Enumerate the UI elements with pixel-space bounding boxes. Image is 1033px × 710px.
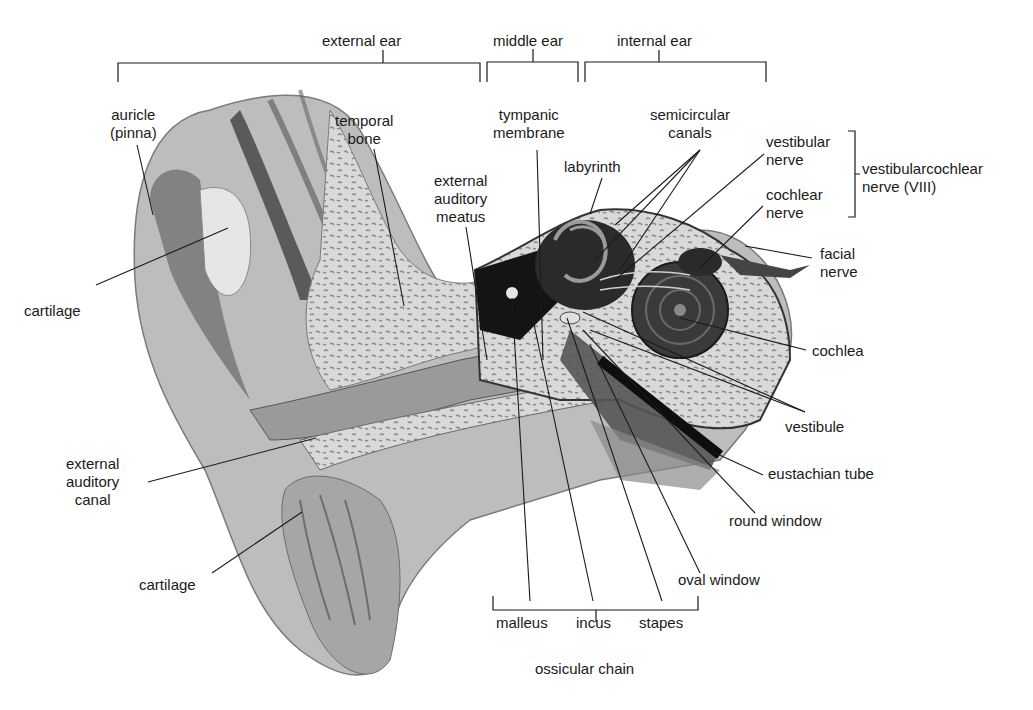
- label-auricle: auricle(pinna): [110, 106, 157, 142]
- label-external-auditory-canal: externalauditorycanal: [66, 455, 119, 509]
- label-cochlea: cochlea: [812, 342, 864, 360]
- label-vestibular-nerve: vestibularnerve: [766, 133, 830, 169]
- label-cartilage-upper: cartilage: [24, 302, 81, 320]
- label-middle-ear: middle ear: [493, 32, 563, 50]
- label-oval-window: oval window: [678, 571, 760, 589]
- label-semicircular-canals: semicircularcanals: [650, 106, 730, 142]
- label-external-ear: external ear: [322, 32, 401, 50]
- label-internal-ear: internal ear: [617, 32, 692, 50]
- label-round-window: round window: [729, 512, 822, 530]
- label-tympanic-membrane: tympanicmembrane: [493, 106, 565, 142]
- label-labyrinth: labyrinth: [564, 158, 621, 176]
- label-temporal-bone: temporalbone: [335, 112, 393, 148]
- label-vestibule: vestibule: [785, 418, 844, 436]
- label-eustachian-tube: eustachian tube: [768, 465, 874, 483]
- label-ossicular-chain: ossicular chain: [535, 660, 634, 678]
- label-malleus: malleus: [496, 614, 548, 632]
- label-cartilage-lower: cartilage: [139, 576, 196, 594]
- label-facial-nerve: facialnerve: [820, 245, 858, 281]
- label-vestibulocochlear-nerve: vestibularcochlearnerve (VIII): [862, 160, 983, 196]
- label-cochlear-nerve: cochlearnerve: [766, 186, 823, 222]
- label-external-auditory-meatus: externalauditorymeatus: [434, 172, 487, 226]
- label-stapes: stapes: [639, 614, 683, 632]
- label-incus: incus: [576, 614, 611, 632]
